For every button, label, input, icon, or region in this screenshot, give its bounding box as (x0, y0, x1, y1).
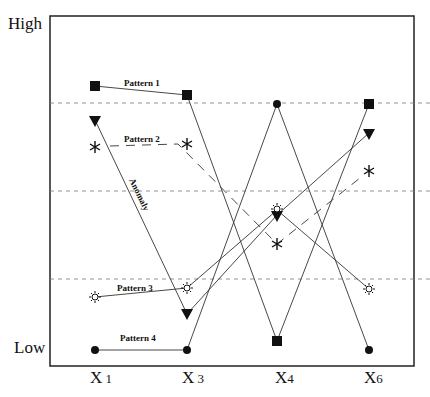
down-triangle-marker-icon (89, 116, 101, 127)
square-marker-icon (272, 336, 282, 346)
sun-marker-icon (89, 291, 101, 303)
pattern1-markers (90, 81, 374, 346)
down-triangle-marker-icon (181, 309, 193, 320)
circle-marker-icon (273, 100, 281, 108)
pattern4-label: Pattern 4 (120, 333, 156, 343)
pattern2-line (110, 144, 360, 244)
circle-marker-icon (365, 346, 373, 354)
pattern2-markers (90, 138, 374, 250)
down-triangle-marker-icon (363, 129, 375, 140)
pattern1-line (95, 86, 369, 341)
asterisk-marker-icon (90, 141, 100, 153)
square-marker-icon (90, 81, 100, 91)
pattern-diagram: Pattern 1 Pattern 2 Pattern 3 Pattern 4 … (0, 0, 430, 397)
sun-marker-icon (363, 283, 375, 295)
plot-frame (50, 16, 414, 366)
pattern2-label: Pattern 2 (124, 134, 160, 144)
asterisk-marker-icon (272, 238, 282, 250)
circle-marker-icon (91, 346, 99, 354)
circle-marker-icon (183, 346, 191, 354)
square-marker-icon (182, 90, 192, 100)
pattern3-label: Pattern 3 (117, 283, 153, 293)
asterisk-marker-icon (364, 165, 374, 177)
asterisk-marker-icon (182, 138, 192, 150)
pattern1-label: Pattern 1 (124, 78, 160, 88)
square-marker-icon (364, 99, 374, 109)
